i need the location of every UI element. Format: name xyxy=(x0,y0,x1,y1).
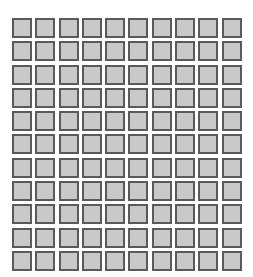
grid-cell[interactable] xyxy=(198,111,218,131)
grid-cell[interactable] xyxy=(222,181,242,201)
grid-cell[interactable] xyxy=(59,65,79,85)
grid-cell[interactable] xyxy=(152,18,172,38)
grid-cell[interactable] xyxy=(175,134,195,154)
grid-cell[interactable] xyxy=(105,181,125,201)
grid-cell[interactable] xyxy=(82,134,102,154)
grid-cell[interactable] xyxy=(12,228,32,248)
grid-cell[interactable] xyxy=(82,204,102,224)
grid-cell[interactable] xyxy=(175,41,195,61)
grid-cell[interactable] xyxy=(35,88,55,108)
grid-cell[interactable] xyxy=(105,228,125,248)
grid-cell[interactable] xyxy=(198,88,218,108)
grid-cell[interactable] xyxy=(175,204,195,224)
grid-cell[interactable] xyxy=(59,181,79,201)
grid-cell[interactable] xyxy=(12,158,32,178)
grid-cell[interactable] xyxy=(12,204,32,224)
grid-cell[interactable] xyxy=(222,65,242,85)
grid-cell[interactable] xyxy=(152,65,172,85)
grid-cell[interactable] xyxy=(198,251,218,271)
grid-cell[interactable] xyxy=(128,88,148,108)
grid-cell[interactable] xyxy=(198,134,218,154)
grid-cell[interactable] xyxy=(12,18,32,38)
grid-cell[interactable] xyxy=(128,158,148,178)
grid-cell[interactable] xyxy=(152,228,172,248)
grid-cell[interactable] xyxy=(198,204,218,224)
grid-cell[interactable] xyxy=(128,111,148,131)
grid-cell[interactable] xyxy=(222,204,242,224)
grid-cell[interactable] xyxy=(198,228,218,248)
grid-cell[interactable] xyxy=(12,134,32,154)
grid-cell[interactable] xyxy=(35,158,55,178)
grid-cell[interactable] xyxy=(12,251,32,271)
grid-cell[interactable] xyxy=(105,134,125,154)
grid-cell[interactable] xyxy=(82,251,102,271)
grid-cell[interactable] xyxy=(35,111,55,131)
grid-cell[interactable] xyxy=(222,111,242,131)
grid-cell[interactable] xyxy=(12,181,32,201)
grid-cell[interactable] xyxy=(222,41,242,61)
grid-cell[interactable] xyxy=(35,41,55,61)
grid-cell[interactable] xyxy=(175,88,195,108)
grid-cell[interactable] xyxy=(35,251,55,271)
grid-cell[interactable] xyxy=(59,88,79,108)
grid-cell[interactable] xyxy=(59,18,79,38)
grid-cell[interactable] xyxy=(59,111,79,131)
grid-cell[interactable] xyxy=(152,158,172,178)
grid-cell[interactable] xyxy=(59,134,79,154)
grid-cell[interactable] xyxy=(12,111,32,131)
grid-cell[interactable] xyxy=(198,158,218,178)
grid-cell[interactable] xyxy=(105,41,125,61)
grid-cell[interactable] xyxy=(35,181,55,201)
grid-cell[interactable] xyxy=(175,111,195,131)
grid-cell[interactable] xyxy=(105,18,125,38)
grid-cell[interactable] xyxy=(152,88,172,108)
grid-cell[interactable] xyxy=(82,228,102,248)
grid-cell[interactable] xyxy=(12,88,32,108)
grid-cell[interactable] xyxy=(105,251,125,271)
grid-cell[interactable] xyxy=(175,181,195,201)
grid-cell[interactable] xyxy=(152,204,172,224)
grid-cell[interactable] xyxy=(128,65,148,85)
grid-cell[interactable] xyxy=(128,134,148,154)
grid-cell[interactable] xyxy=(222,228,242,248)
grid-cell[interactable] xyxy=(82,18,102,38)
grid-cell[interactable] xyxy=(82,41,102,61)
grid-cell[interactable] xyxy=(128,18,148,38)
grid-cell[interactable] xyxy=(12,65,32,85)
grid-cell[interactable] xyxy=(82,158,102,178)
grid-cell[interactable] xyxy=(198,18,218,38)
grid-cell[interactable] xyxy=(105,65,125,85)
grid-cell[interactable] xyxy=(35,204,55,224)
grid-cell[interactable] xyxy=(59,204,79,224)
grid-cell[interactable] xyxy=(82,111,102,131)
grid-cell[interactable] xyxy=(128,228,148,248)
grid-cell[interactable] xyxy=(59,158,79,178)
grid-cell[interactable] xyxy=(128,41,148,61)
grid-cell[interactable] xyxy=(128,181,148,201)
grid-cell[interactable] xyxy=(105,158,125,178)
grid-cell[interactable] xyxy=(222,18,242,38)
grid-cell[interactable] xyxy=(105,204,125,224)
grid-cell[interactable] xyxy=(198,181,218,201)
grid-cell[interactable] xyxy=(222,134,242,154)
grid-cell[interactable] xyxy=(82,65,102,85)
grid-cell[interactable] xyxy=(175,18,195,38)
grid-cell[interactable] xyxy=(105,111,125,131)
grid-cell[interactable] xyxy=(222,251,242,271)
grid-cell[interactable] xyxy=(128,204,148,224)
grid-cell[interactable] xyxy=(128,251,148,271)
grid-cell[interactable] xyxy=(175,65,195,85)
grid-cell[interactable] xyxy=(12,41,32,61)
grid-cell[interactable] xyxy=(59,41,79,61)
grid-cell[interactable] xyxy=(222,88,242,108)
grid-cell[interactable] xyxy=(152,181,172,201)
grid-cell[interactable] xyxy=(59,228,79,248)
grid-cell[interactable] xyxy=(175,251,195,271)
grid-cell[interactable] xyxy=(82,88,102,108)
grid-cell[interactable] xyxy=(175,158,195,178)
grid-cell[interactable] xyxy=(105,88,125,108)
grid-cell[interactable] xyxy=(152,251,172,271)
grid-cell[interactable] xyxy=(59,251,79,271)
grid-cell[interactable] xyxy=(35,228,55,248)
grid-cell[interactable] xyxy=(152,111,172,131)
